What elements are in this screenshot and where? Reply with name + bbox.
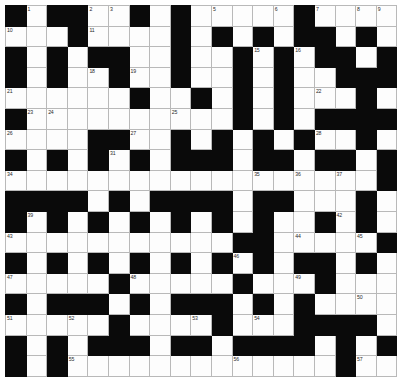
crossword-cell[interactable] [150,170,171,191]
crossword-cell[interactable] [294,211,315,232]
crossword-cell[interactable] [376,253,397,274]
crossword-cell[interactable] [376,191,397,212]
crossword-cell[interactable] [88,314,109,335]
crossword-cell[interactable] [129,191,150,212]
crossword-cell[interactable] [150,294,171,315]
crossword-cell[interactable] [150,273,171,294]
crossword-cell[interactable]: 44 [294,232,315,253]
crossword-cell[interactable] [191,47,212,68]
crossword-cell[interactable] [108,88,129,109]
crossword-cell[interactable] [232,294,253,315]
crossword-cell[interactable] [67,129,88,150]
crossword-cell[interactable]: 47 [6,273,27,294]
crossword-cell[interactable]: 16 [294,47,315,68]
crossword-cell[interactable]: 24 [47,108,68,129]
crossword-cell[interactable] [47,273,68,294]
crossword-cell[interactable] [67,211,88,232]
crossword-cell[interactable]: 22 [314,88,335,109]
crossword-cell[interactable]: 7 [314,6,335,27]
crossword-cell[interactable] [47,232,68,253]
crossword-cell[interactable] [356,47,377,68]
crossword-cell[interactable] [108,26,129,47]
crossword-cell[interactable] [170,232,191,253]
crossword-cell[interactable] [170,273,191,294]
crossword-cell[interactable] [129,47,150,68]
crossword-cell[interactable] [26,67,47,88]
crossword-cell[interactable] [26,47,47,68]
crossword-cell[interactable] [47,88,68,109]
crossword-cell[interactable]: 35 [253,170,274,191]
crossword-cell[interactable] [376,356,397,377]
crossword-cell[interactable] [150,129,171,150]
crossword-cell[interactable] [191,6,212,27]
crossword-cell[interactable] [232,191,253,212]
crossword-cell[interactable] [356,273,377,294]
crossword-cell[interactable] [47,314,68,335]
crossword-cell[interactable] [129,170,150,191]
crossword-cell[interactable] [314,232,335,253]
crossword-cell[interactable] [232,314,253,335]
crossword-cell[interactable] [253,67,274,88]
crossword-cell[interactable] [273,26,294,47]
crossword-cell[interactable] [314,67,335,88]
crossword-cell[interactable] [253,88,274,109]
crossword-cell[interactable]: 26 [6,129,27,150]
crossword-cell[interactable] [335,232,356,253]
crossword-cell[interactable] [294,150,315,171]
crossword-cell[interactable] [150,6,171,27]
crossword-cell[interactable] [335,129,356,150]
crossword-cell[interactable] [376,211,397,232]
crossword-cell[interactable] [273,232,294,253]
crossword-cell[interactable]: 15 [253,47,274,68]
crossword-cell[interactable]: 31 [108,150,129,171]
crossword-cell[interactable] [335,253,356,274]
crossword-cell[interactable]: 39 [26,211,47,232]
crossword-cell[interactable] [314,170,335,191]
crossword-cell[interactable] [26,150,47,171]
crossword-cell[interactable] [314,356,335,377]
crossword-cell[interactable] [67,253,88,274]
crossword-cell[interactable]: 57 [356,356,377,377]
crossword-cell[interactable] [67,47,88,68]
crossword-cell[interactable] [273,314,294,335]
crossword-cell[interactable] [67,335,88,356]
crossword-cell[interactable] [88,88,109,109]
crossword-cell[interactable] [67,88,88,109]
crossword-cell[interactable] [26,253,47,274]
crossword-cell[interactable]: 49 [294,273,315,294]
crossword-cell[interactable] [294,356,315,377]
crossword-cell[interactable] [150,356,171,377]
crossword-cell[interactable] [108,253,129,274]
crossword-cell[interactable] [335,294,356,315]
crossword-cell[interactable] [253,6,274,27]
crossword-cell[interactable] [150,150,171,171]
crossword-cell[interactable] [356,170,377,191]
crossword-cell[interactable] [211,335,232,356]
crossword-cell[interactable] [150,88,171,109]
crossword-cell[interactable] [253,273,274,294]
crossword-cell[interactable] [129,108,150,129]
crossword-cell[interactable]: 6 [273,6,294,27]
crossword-cell[interactable] [211,273,232,294]
crossword-cell[interactable] [67,108,88,129]
crossword-cell[interactable]: 43 [6,232,27,253]
crossword-cell[interactable] [67,150,88,171]
crossword-cell[interactable] [314,191,335,212]
crossword-cell[interactable] [150,253,171,274]
crossword-cell[interactable]: 23 [26,108,47,129]
crossword-cell[interactable]: 2 [88,6,109,27]
crossword-cell[interactable]: 54 [253,314,274,335]
crossword-cell[interactable] [191,26,212,47]
crossword-cell[interactable] [273,211,294,232]
crossword-cell[interactable]: 53 [191,314,212,335]
crossword-cell[interactable] [129,314,150,335]
crossword-cell[interactable]: 10 [6,26,27,47]
crossword-cell[interactable]: 1 [26,6,47,27]
crossword-cell[interactable] [376,88,397,109]
crossword-cell[interactable] [150,67,171,88]
crossword-cell[interactable] [335,273,356,294]
crossword-cell[interactable]: 42 [335,211,356,232]
crossword-cell[interactable] [88,273,109,294]
crossword-cell[interactable] [26,273,47,294]
crossword-cell[interactable] [273,129,294,150]
